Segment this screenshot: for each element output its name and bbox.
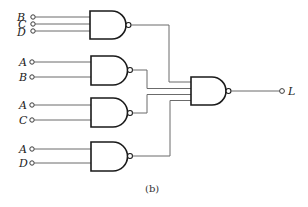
wire-g3-to-g5	[133, 95, 192, 114]
input-terminal	[30, 103, 34, 107]
input-terminal	[31, 15, 35, 19]
inversion-bubble-icon	[128, 111, 133, 116]
inversion-bubble-icon	[128, 68, 133, 73]
nand-logic-diagram: B C D A B A C A D	[0, 0, 308, 207]
input-terminal	[30, 118, 34, 122]
figure-caption: (b)	[145, 183, 159, 194]
inversion-bubble-icon	[128, 154, 133, 159]
inversion-bubble-icon	[126, 23, 131, 28]
gate-5-group: L	[191, 77, 295, 105]
output-label-l: L	[287, 85, 295, 98]
gate-1-group: B C D	[16, 11, 131, 39]
output-terminal	[280, 89, 285, 94]
input-label-c: C	[19, 114, 28, 127]
wire-g2-to-g5	[133, 70, 192, 89]
input-terminal	[30, 75, 34, 79]
input-terminal	[30, 60, 34, 64]
gate-4-group: A D	[18, 142, 133, 171]
nand-gate-2	[91, 56, 128, 85]
gate-2-group: A B	[18, 56, 133, 85]
nand-gate-4	[91, 142, 128, 171]
input-label-a: A	[18, 56, 27, 69]
input-label-d: D	[16, 26, 26, 39]
wire-g1-to-g5	[131, 25, 191, 82]
nand-gate-1	[90, 11, 126, 39]
input-terminal	[31, 22, 35, 26]
gate-3-group: A C	[18, 98, 133, 127]
input-label-d: D	[18, 157, 28, 170]
input-terminal	[30, 161, 34, 165]
inversion-bubble-icon	[226, 89, 231, 94]
nand-gate-final	[191, 77, 226, 105]
input-label-a: A	[18, 143, 27, 156]
wire-g4-to-g5	[133, 101, 192, 157]
input-terminal	[30, 147, 34, 151]
input-terminal	[31, 29, 35, 33]
input-label-a: A	[18, 99, 27, 112]
nand-gate-3	[91, 98, 127, 127]
interconnect-wires	[131, 25, 191, 156]
input-label-b: B	[18, 71, 27, 84]
